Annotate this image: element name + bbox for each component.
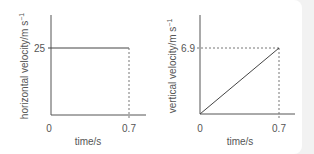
figure: 25 0 0.7 time/s horizontal velocity/m s−… xyxy=(0,0,314,154)
vertical-velocity-line xyxy=(200,48,279,114)
left-x-label: time/s xyxy=(75,136,102,147)
vertical-velocity-chart: 6.9 0 0.7 time/s vertical velocity/m s−1 xyxy=(166,15,295,147)
horizontal-velocity-chart: 25 0 0.7 time/s horizontal velocity/m s−… xyxy=(18,13,146,147)
right-y-label: vertical velocity/m s−1 xyxy=(166,19,178,114)
left-ytick-25: 25 xyxy=(34,43,46,54)
right-ytick-6-9: 6.9 xyxy=(181,43,195,54)
left-xtick-0: 0 xyxy=(46,123,52,134)
right-xtick-0: 0 xyxy=(197,123,203,134)
right-xtick-0-7: 0.7 xyxy=(272,123,286,134)
left-xtick-0-7: 0.7 xyxy=(122,123,136,134)
right-x-label: time/s xyxy=(227,136,254,147)
left-y-label: horizontal velocity/m s−1 xyxy=(18,13,30,119)
